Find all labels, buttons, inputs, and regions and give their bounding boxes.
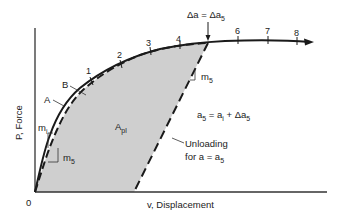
tick-label-1: 1 [86, 66, 91, 76]
slope-label-mi: mi [38, 122, 48, 135]
unloading-label-line1: Unloading [185, 138, 228, 149]
unloading-leader [172, 138, 184, 143]
curve-label-b: B [62, 79, 68, 90]
tick-label-7: 7 [265, 26, 270, 36]
origin-label: 0 [26, 197, 31, 208]
unloading-label-line2: for a = a5 [185, 151, 224, 164]
delta-a-label: Δa = Δa5 [187, 9, 225, 22]
tick-label-4: 4 [176, 34, 181, 44]
y-axis-label: P, Force [13, 105, 24, 140]
x-axis-label: v, Displacement [147, 199, 214, 210]
slope-label-m5-upper: m5 [201, 71, 213, 84]
crack-length-equation: a5 = ai + Δa5 [197, 109, 250, 122]
curve-arrow-icon [304, 39, 314, 46]
down-arrow-icon [206, 35, 211, 41]
curve-label-a: A [44, 94, 51, 105]
tick-label-6: 6 [235, 26, 240, 36]
tick-label-8: 8 [294, 28, 299, 38]
tick-label-2: 2 [117, 50, 122, 60]
load-displacement-figure: 1 2 3 4 6 7 8 Δa = Δa5 A B mi m5 m5 Apl … [0, 0, 343, 219]
tick-label-3: 3 [146, 38, 151, 48]
curve-a-leader [53, 100, 64, 106]
